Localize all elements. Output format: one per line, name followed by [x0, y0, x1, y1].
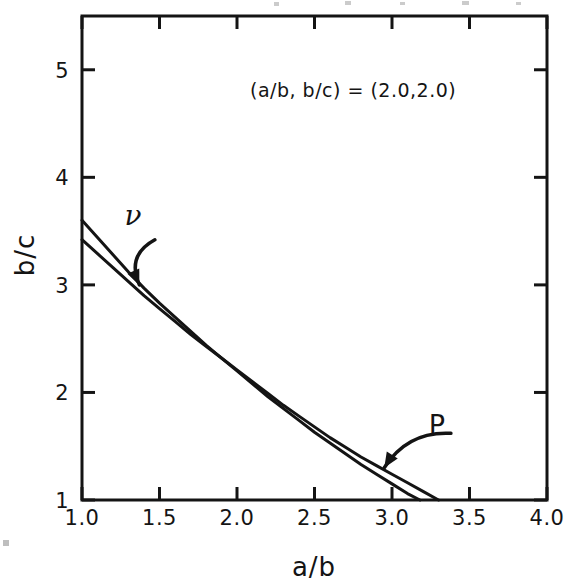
x-tick-label: 3.5 [452, 506, 487, 530]
x-tick-label: 4.0 [530, 506, 565, 530]
x-tick-label: 2.0 [220, 506, 255, 530]
x-tick-label: 1.0 [65, 506, 100, 530]
series-label-nu: ν [124, 199, 141, 232]
y-tick-label: 1 [55, 489, 69, 513]
y-axis-title: b/c [10, 234, 40, 277]
y-tick-label: 4 [55, 166, 69, 190]
series-label-p: P [429, 409, 445, 440]
parameter-annotation: (a/b, b/c) = (2.0,2.0) [250, 79, 456, 101]
x-tick-label: 2.5 [297, 506, 332, 530]
y-tick-label: 5 [55, 59, 69, 83]
x-tick-label: 3.0 [375, 506, 410, 530]
line-chart: 1.01.52.02.53.03.54.0 12345 (a/b, b/c) =… [0, 0, 570, 584]
figure-container: 1.01.52.02.53.03.54.0 12345 (a/b, b/c) =… [0, 0, 570, 584]
x-axis-title: a/b [292, 552, 336, 582]
y-tick-label: 2 [55, 381, 69, 405]
x-tick-label: 1.5 [142, 506, 177, 530]
y-tick-label: 3 [55, 274, 69, 298]
